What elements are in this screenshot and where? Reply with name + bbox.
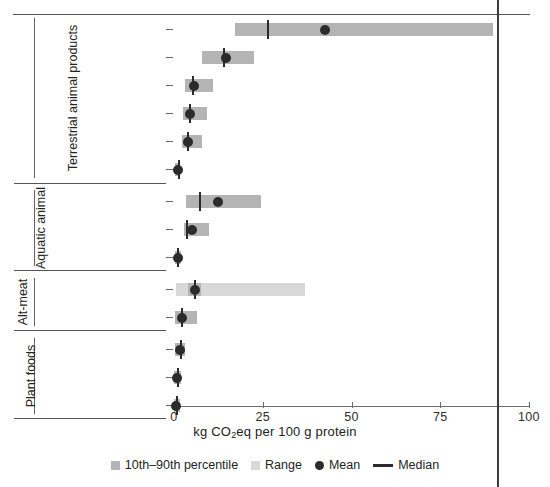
mean-marker bbox=[171, 401, 181, 411]
chart-row: Pig meat (75) bbox=[174, 72, 530, 100]
mean-marker bbox=[172, 373, 182, 383]
chart-row: Eggs (31) bbox=[174, 128, 530, 156]
chart-row: Wild tuna (2) bbox=[174, 244, 530, 272]
mean-marker bbox=[320, 25, 330, 35]
percentile-bar bbox=[235, 23, 493, 36]
chart-row: Tofu (47) bbox=[174, 336, 530, 364]
mean-marker bbox=[183, 137, 193, 147]
legend-label: Mean bbox=[329, 458, 360, 472]
x-axis-title-post: eq per 100 g protein bbox=[236, 424, 356, 439]
mean-marker bbox=[177, 313, 187, 323]
plot-area: 0255075100 Beef, beef herd (106)Beef, da… bbox=[174, 14, 529, 406]
legend-label: Median bbox=[398, 458, 439, 472]
group-bracket bbox=[14, 274, 166, 331]
group-label-text: Plant foods bbox=[24, 345, 38, 408]
chart-legend: 10th–90th percentileRangeMeanMedian bbox=[0, 458, 550, 472]
group-divider bbox=[34, 18, 35, 178]
category-tick bbox=[166, 317, 173, 318]
x-axis-title-pre: kg CO bbox=[193, 424, 231, 439]
median-marker bbox=[267, 20, 269, 39]
category-tick bbox=[166, 349, 173, 350]
legend-label: Range bbox=[265, 458, 302, 472]
chart-row: Poultry meat (46) bbox=[174, 100, 530, 128]
legend-label: 10th–90th percentile bbox=[125, 458, 238, 472]
category-tick bbox=[166, 229, 173, 230]
legend-swatch-range-icon bbox=[251, 461, 260, 470]
chart-row: Plant-based (11) bbox=[174, 304, 530, 332]
chart-row: Cell-based (4) bbox=[174, 276, 530, 304]
chart-row: Farmed crustaceans (21) bbox=[174, 188, 530, 216]
legend-swatch-median-icon bbox=[373, 464, 393, 467]
legend-swatch-iqr-icon bbox=[111, 461, 120, 470]
legend-item: Range bbox=[251, 458, 302, 472]
group-label: Aquatic animal bbox=[0, 221, 34, 235]
chart-row: Insects (2) bbox=[174, 156, 530, 184]
x-axis-title: kg CO2eq per 100 g protein bbox=[0, 424, 550, 440]
chart-row: Farmed fish (54) bbox=[174, 216, 530, 244]
mean-marker bbox=[173, 253, 183, 263]
mean-marker bbox=[175, 345, 185, 355]
group-label-text: Alt-meat bbox=[16, 279, 30, 326]
legend-swatch-mean-icon bbox=[315, 461, 324, 470]
mean-marker bbox=[187, 225, 197, 235]
category-tick bbox=[166, 289, 173, 290]
chart-row: Beef, beef herd (106) bbox=[174, 16, 530, 44]
mean-marker bbox=[189, 81, 199, 91]
mean-marker bbox=[185, 109, 195, 119]
group-label: Plant foods bbox=[0, 369, 34, 383]
group-label: Terrestrial animal products bbox=[0, 91, 34, 105]
legend-item: 10th–90th percentile bbox=[111, 458, 238, 472]
category-tick bbox=[166, 85, 173, 86]
category-tick bbox=[166, 141, 173, 142]
group-divider bbox=[34, 278, 35, 326]
mean-marker bbox=[213, 197, 223, 207]
legend-item: Mean bbox=[315, 458, 360, 472]
median-marker bbox=[199, 192, 201, 211]
mean-marker bbox=[221, 53, 231, 63]
mean-marker bbox=[190, 285, 200, 295]
legend-item: Median bbox=[373, 458, 439, 472]
chart-row: Peas (33) bbox=[174, 392, 530, 420]
group-bracket bbox=[14, 14, 166, 184]
group-label-text: Terrestrial animal products bbox=[66, 25, 80, 172]
page-edge-line bbox=[497, 0, 499, 487]
mean-marker bbox=[173, 165, 183, 175]
category-tick bbox=[166, 29, 173, 30]
chart-row: Pulses, excluding peas (44) bbox=[174, 364, 530, 392]
category-tick bbox=[166, 257, 173, 258]
co2-protein-chart: 0255075100 Beef, beef herd (106)Beef, da… bbox=[0, 0, 550, 487]
category-tick bbox=[166, 201, 173, 202]
percentile-bar bbox=[186, 195, 261, 208]
chart-row: Beef, dairy herd (43) bbox=[174, 44, 530, 72]
group-label: Alt-meat bbox=[0, 295, 34, 309]
category-tick bbox=[166, 57, 173, 58]
category-tick bbox=[166, 113, 173, 114]
group-label-text: Aquatic animal bbox=[34, 187, 48, 269]
category-tick bbox=[166, 169, 173, 170]
